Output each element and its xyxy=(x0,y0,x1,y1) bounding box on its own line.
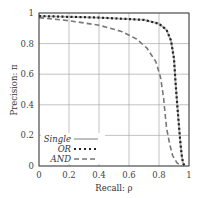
x-tick-label: 0.4 xyxy=(92,170,106,180)
x-axis-label: Recall: ρ xyxy=(95,183,132,193)
x-tick-label: 0.8 xyxy=(152,170,166,180)
y-tick-label: 1 xyxy=(29,8,34,18)
y-axis-label: Precision: π xyxy=(9,64,19,116)
x-tick-label: 0 xyxy=(36,170,41,180)
precision-recall-chart: 00.20.40.60.81 00.20.40.60.81 Recall: ρ … xyxy=(0,0,201,198)
x-tick-label: 1 xyxy=(186,170,191,180)
legend-label-or: OR xyxy=(58,144,72,154)
legend-label-and: AND xyxy=(50,154,72,164)
y-tick-label: 0 xyxy=(29,161,34,171)
x-tick-label: 0.6 xyxy=(122,170,136,180)
y-tick-label: 0.8 xyxy=(20,39,34,49)
y-tick-label: 0.2 xyxy=(20,130,34,140)
legend: Single OR AND xyxy=(41,133,105,164)
x-axis-ticks: 00.20.40.60.81 xyxy=(36,170,191,180)
y-axis-ticks: 00.20.40.60.81 xyxy=(20,8,34,171)
y-tick-label: 0.4 xyxy=(20,100,34,110)
x-tick-label: 0.2 xyxy=(62,170,76,180)
legend-label-single: Single xyxy=(44,134,71,144)
y-tick-label: 0.6 xyxy=(20,69,34,79)
